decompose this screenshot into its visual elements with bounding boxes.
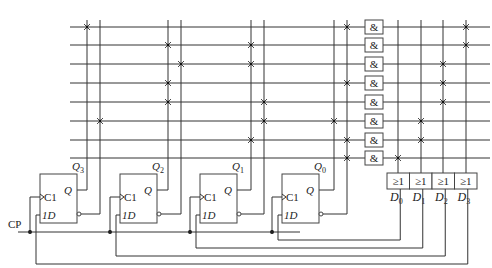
cp-label: CP bbox=[8, 218, 21, 230]
d-label: 1D bbox=[122, 209, 136, 221]
feedback-D3-to-ff3 bbox=[36, 189, 468, 264]
and-gate-label: & bbox=[370, 58, 379, 70]
flip-flop-Q2: C11DQQ2 bbox=[120, 160, 164, 223]
and-gate-4: & bbox=[365, 95, 383, 109]
q-label: Q bbox=[64, 184, 72, 196]
or-array-columns bbox=[398, 20, 466, 173]
or-gate-label: ≥1 bbox=[437, 175, 449, 187]
ff-output-label: Q3 bbox=[72, 160, 84, 175]
and-gate-7: & bbox=[365, 151, 383, 165]
and-gate-label: & bbox=[370, 134, 379, 146]
and-gate-2: & bbox=[365, 57, 383, 71]
ff0-qn-column bbox=[323, 20, 347, 214]
d-label: 1D bbox=[202, 209, 216, 221]
and-gate-label: & bbox=[370, 39, 379, 51]
and-gate-6: & bbox=[365, 133, 383, 147]
ff2-qn-column bbox=[161, 20, 181, 214]
clk-label: C1 bbox=[286, 191, 299, 203]
and-gate-0: & bbox=[365, 20, 383, 34]
ff3-qn-column bbox=[81, 20, 100, 214]
flip-flop-Q3: C11DQQ3 bbox=[40, 160, 84, 223]
flip-flop-Q0: C11DQQ0 bbox=[282, 160, 326, 223]
or-gate-D0: ≥1D0 bbox=[387, 173, 410, 206]
ff-output-label: Q1 bbox=[232, 160, 244, 175]
or-gate-label: ≥1 bbox=[460, 175, 472, 187]
q-label: Q bbox=[306, 184, 314, 196]
product-term-rows bbox=[70, 27, 490, 158]
d-label: 1D bbox=[42, 209, 56, 221]
q-label: Q bbox=[144, 184, 152, 196]
or-gate-label: ≥1 bbox=[415, 175, 427, 187]
and-gate-label: & bbox=[370, 77, 379, 89]
ff1-qn-column bbox=[241, 20, 264, 214]
and-gate-array: &&&&&&&& bbox=[365, 20, 383, 165]
clk-label: C1 bbox=[124, 191, 137, 203]
and-gate-3: & bbox=[365, 76, 383, 90]
or-gate-D1: ≥1D1 bbox=[410, 173, 433, 206]
clk-label: C1 bbox=[44, 191, 57, 203]
ff-output-label: Q2 bbox=[152, 160, 164, 175]
ff-output-label: Q0 bbox=[314, 160, 326, 175]
and-gate-label: & bbox=[370, 21, 379, 33]
or-gate-label: ≥1 bbox=[392, 175, 404, 187]
clk-label: C1 bbox=[204, 191, 217, 203]
and-gate-1: & bbox=[365, 38, 383, 52]
or-gate-D3: ≥1D3 bbox=[455, 173, 478, 206]
and-gate-label: & bbox=[370, 115, 379, 127]
and-gate-label: & bbox=[370, 152, 379, 164]
and-gate-5: & bbox=[365, 114, 383, 128]
circuit-diagram: &&&&&&&& ≥1D0≥1D1≥1D2≥1D3 C11DQQ3C11DQQ2… bbox=[0, 0, 492, 268]
feedback-wires bbox=[36, 189, 468, 264]
or-gate-D2: ≥1D2 bbox=[432, 173, 455, 206]
flip-flop-Q1: C11DQQ1 bbox=[200, 160, 244, 223]
and-gate-label: & bbox=[370, 96, 379, 108]
d-label: 1D bbox=[284, 209, 298, 221]
q-label: Q bbox=[224, 184, 232, 196]
